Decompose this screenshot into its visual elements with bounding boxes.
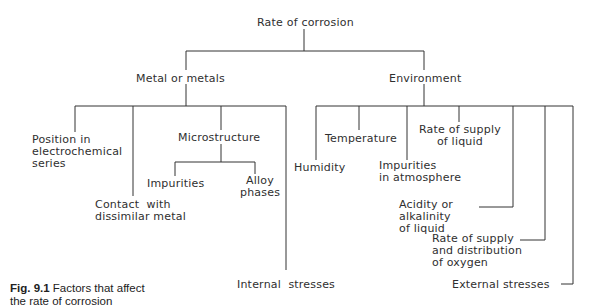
node-contact-with-dissimilar-metal: Contact with dissimilar metal (95, 199, 186, 223)
node-impurities: Impurities (147, 178, 204, 190)
node-metal-or-metals: Metal or metals (136, 73, 225, 85)
node-rate-of-corrosion: Rate of corrosion (257, 17, 354, 29)
caption-text-line1: Factors that affect (50, 282, 145, 294)
node-internal-stresses: Internal stresses (237, 279, 335, 291)
caption-text-line2: the rate of corrosion (10, 295, 112, 307)
figure-number: Fig. 9.1 (10, 282, 50, 294)
figure-caption: Fig. 9.1 Factors that affect the rate of… (10, 282, 145, 308)
node-microstructure: Microstructure (178, 132, 260, 144)
node-alloy-phases: Alloy phases (240, 175, 280, 199)
node-acidity-or-alkalinity-of-liquid: Acidity or alkalinity of liquid (399, 199, 453, 235)
node-temperature: Temperature (325, 133, 397, 145)
node-position-in-electrochemical-series: Position in electrochemical series (32, 134, 122, 170)
node-rate-of-supply-of-liquid: Rate of supply of liquid (419, 124, 501, 148)
node-environment: Environment (389, 73, 461, 85)
node-impurities-in-atmosphere: Impurities in atmosphere (379, 160, 461, 184)
node-humidity: Humidity (294, 162, 345, 174)
node-rate-of-supply-and-distribution-of-oxygen: Rate of supply and distribution of oxyge… (432, 233, 522, 269)
node-external-stresses: External stresses (452, 279, 550, 291)
